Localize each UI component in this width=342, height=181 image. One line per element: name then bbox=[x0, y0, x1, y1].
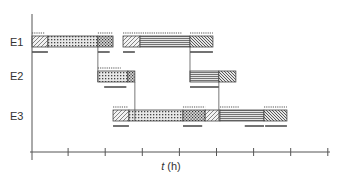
task-segment bbox=[190, 71, 219, 82]
task-segment bbox=[129, 110, 183, 121]
task-segment bbox=[183, 110, 205, 121]
rows-layer bbox=[32, 33, 287, 126]
task-segment bbox=[32, 36, 48, 47]
task-segment bbox=[140, 36, 190, 47]
task-segment bbox=[123, 36, 140, 47]
task-segment bbox=[98, 71, 128, 82]
task-segment bbox=[48, 36, 98, 47]
row-label-e2: E2 bbox=[10, 70, 23, 82]
x-axis-unit: (h) bbox=[164, 160, 181, 172]
x-axis-label: t (h) bbox=[161, 160, 181, 172]
task-segment bbox=[128, 71, 135, 82]
task-segment bbox=[98, 36, 113, 47]
task-segment bbox=[264, 110, 287, 121]
task-segment bbox=[220, 110, 264, 121]
gantt-diagram: E1 E2 E3 t (h) bbox=[0, 0, 342, 181]
task-segment bbox=[190, 36, 213, 47]
row-label-e3: E3 bbox=[10, 110, 23, 122]
task-segment bbox=[219, 71, 236, 82]
task-segment bbox=[205, 110, 220, 121]
task-segment bbox=[113, 110, 129, 121]
row-label-e1: E1 bbox=[10, 36, 23, 48]
